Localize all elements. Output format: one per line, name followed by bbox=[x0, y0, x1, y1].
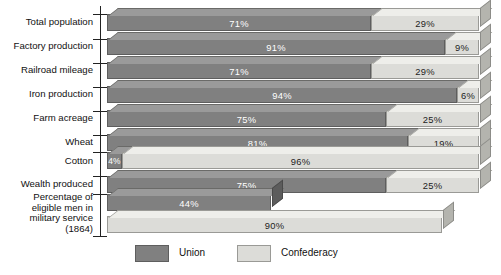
axis-tick-1 bbox=[93, 39, 107, 40]
bar-row-military-service-confederacy: 90% bbox=[107, 216, 442, 233]
legend-swatch-confederacy bbox=[237, 245, 271, 262]
bar-top-face bbox=[108, 32, 458, 40]
bar-segment-confederacy-0: 29% bbox=[371, 14, 479, 31]
bar-value-confederacy-2: 29% bbox=[372, 65, 478, 76]
legend-label-union: Union bbox=[179, 247, 205, 258]
bar-row-railroad-mileage: 71% 29% bbox=[107, 62, 479, 79]
bar-side-face bbox=[480, 161, 491, 189]
bar-top-face bbox=[108, 104, 399, 112]
bar-value-union-0: 71% bbox=[108, 17, 370, 28]
axis-tick-8 bbox=[93, 194, 107, 195]
chart-legend: Union Confederacy bbox=[0, 243, 501, 275]
axis-tick-0 bbox=[93, 14, 107, 15]
bar-top-face bbox=[123, 146, 492, 154]
plot-area: 71% 29% 91% 9% 71% bbox=[107, 0, 501, 240]
axis-tick-6 bbox=[93, 152, 107, 153]
legend-swatch-union bbox=[135, 245, 169, 262]
bar-value-confederacy-6: 96% bbox=[123, 155, 478, 166]
axis-tick-4 bbox=[93, 111, 107, 112]
bar-value-union-3: 94% bbox=[108, 89, 456, 100]
bar-segment-confederacy-7: 25% bbox=[386, 176, 479, 193]
bar-segment-union-1: 91% bbox=[107, 38, 445, 55]
bar-value-confederacy-8: 90% bbox=[108, 219, 441, 230]
bar-top-face bbox=[387, 104, 492, 112]
bar-side-face bbox=[480, 71, 491, 99]
bar-side-face bbox=[480, 23, 491, 51]
bar-side-face bbox=[443, 201, 454, 229]
bar-value-confederacy-7: 25% bbox=[387, 179, 478, 190]
bar-row-farm-acreage: 75% 25% bbox=[107, 110, 479, 127]
bar-segment-confederacy-4: 25% bbox=[386, 110, 479, 127]
bar-segment-confederacy-2: 29% bbox=[371, 62, 479, 79]
category-label-column: Total population Factory production Rail… bbox=[0, 0, 101, 240]
civil-war-resources-chart: Total population Factory production Rail… bbox=[0, 0, 501, 275]
bar-side-face bbox=[480, 95, 491, 123]
axis-tick-5 bbox=[93, 135, 107, 136]
bar-segment-union-2: 71% bbox=[107, 62, 371, 79]
bar-top-face bbox=[372, 8, 492, 16]
category-label-4: Farm acreage bbox=[33, 113, 93, 124]
category-label-0: Total population bbox=[26, 17, 93, 28]
bar-value-confederacy-3: 6% bbox=[458, 89, 478, 100]
bar-top-face bbox=[108, 210, 455, 218]
bar-value-confederacy-0: 29% bbox=[372, 17, 478, 28]
bar-segment-union-4: 75% bbox=[107, 110, 386, 127]
bar-segment-confederacy-3: 6% bbox=[457, 86, 479, 103]
axis-tick-3 bbox=[93, 87, 107, 88]
bar-row-factory-production: 91% 9% bbox=[107, 38, 479, 55]
category-label-3: Iron production bbox=[29, 89, 93, 100]
bar-top-face bbox=[372, 56, 492, 64]
bar-value-union-6: 4% bbox=[108, 156, 121, 166]
bar-segment-union-3: 94% bbox=[107, 86, 457, 103]
bar-value-confederacy-1: 9% bbox=[446, 41, 478, 52]
axis-tick-7 bbox=[93, 176, 107, 177]
category-label-1: Factory production bbox=[14, 41, 93, 52]
axis-tick-9 bbox=[93, 236, 107, 237]
bar-row-military-service-union: 44% bbox=[107, 194, 271, 211]
bar-side-face bbox=[480, 47, 491, 75]
bar-segment-confederacy-8: 90% bbox=[107, 216, 442, 233]
bar-value-union-1: 91% bbox=[108, 41, 444, 52]
bar-value-union-4: 75% bbox=[108, 113, 385, 124]
category-label-8: Percentage of eligible men in military s… bbox=[19, 192, 93, 234]
bar-segment-union-0: 71% bbox=[107, 14, 371, 31]
bar-row-total-population: 71% 29% bbox=[107, 14, 479, 31]
bar-segment-confederacy-6: 96% bbox=[122, 152, 479, 169]
category-label-6: Cotton bbox=[65, 156, 93, 167]
axis-tick-2 bbox=[93, 63, 107, 64]
bar-value-confederacy-4: 25% bbox=[387, 113, 478, 124]
bar-top-face bbox=[108, 80, 470, 88]
legend-label-confederacy: Confederacy bbox=[281, 247, 338, 258]
bar-row-iron-production: 94% 6% bbox=[107, 86, 479, 103]
bar-segment-union-6: 4% bbox=[107, 152, 122, 169]
bar-top-face bbox=[108, 56, 384, 64]
category-label-5: Wheat bbox=[65, 137, 93, 148]
bar-top-face bbox=[108, 128, 421, 136]
category-label-2: Railroad mileage bbox=[21, 65, 93, 76]
category-label-7: Wealth produced bbox=[21, 179, 93, 190]
bar-top-face bbox=[108, 170, 399, 178]
bar-segment-union-8: 44% bbox=[107, 194, 271, 211]
bar-top-face bbox=[387, 170, 492, 178]
bar-top-face bbox=[108, 8, 384, 16]
bar-row-cotton: 4% 96% bbox=[107, 152, 479, 169]
bar-top-face bbox=[108, 188, 284, 196]
bar-segment-confederacy-1: 9% bbox=[445, 38, 479, 55]
bar-value-union-2: 71% bbox=[108, 65, 370, 76]
bar-value-union-8: 44% bbox=[108, 197, 270, 208]
